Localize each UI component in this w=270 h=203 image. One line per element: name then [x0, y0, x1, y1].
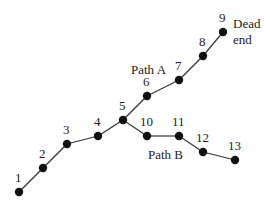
node-6	[143, 92, 151, 100]
node-3	[63, 140, 71, 148]
edge-1-2	[19, 168, 43, 192]
node-2	[39, 164, 47, 172]
nodes	[15, 28, 239, 196]
node-5	[119, 116, 127, 124]
node-label-9: 9	[219, 10, 226, 25]
dead-end-label-line1: Dead	[233, 16, 261, 31]
dead-end-label-line2: end	[233, 32, 252, 47]
node-9	[219, 28, 227, 36]
node-label-8: 8	[199, 34, 206, 49]
path-a-label: Path A	[131, 62, 167, 77]
node-label-4: 4	[94, 114, 101, 129]
edge-3-4	[67, 136, 98, 144]
node-label-2: 2	[39, 146, 46, 161]
node-label-12: 12	[196, 130, 209, 145]
node-4	[94, 132, 102, 140]
node-12	[199, 148, 207, 156]
edge-8-9	[203, 32, 223, 56]
node-label-10: 10	[140, 114, 153, 129]
node-label-13: 13	[228, 138, 241, 153]
node-label-3: 3	[63, 122, 70, 137]
node-7	[175, 76, 183, 84]
edge-2-3	[43, 144, 67, 168]
node-labels: 12345678910111213	[15, 10, 241, 185]
node-label-7: 7	[175, 58, 182, 73]
diagram-svg: 12345678910111213 Path A Path B Dead end	[0, 0, 270, 203]
node-10	[143, 132, 151, 140]
edge-7-8	[179, 56, 203, 80]
edge-4-5	[98, 120, 123, 136]
node-11	[175, 132, 183, 140]
node-label-11: 11	[172, 114, 185, 129]
path-diagram: 12345678910111213 Path A Path B Dead end	[0, 0, 270, 203]
node-label-1: 1	[15, 170, 22, 185]
node-label-5: 5	[119, 98, 126, 113]
edge-12-13	[203, 152, 235, 160]
edge-6-7	[147, 80, 179, 96]
node-8	[199, 52, 207, 60]
node-13	[231, 156, 239, 164]
path-b-label: Path B	[148, 147, 183, 162]
node-1	[15, 188, 23, 196]
